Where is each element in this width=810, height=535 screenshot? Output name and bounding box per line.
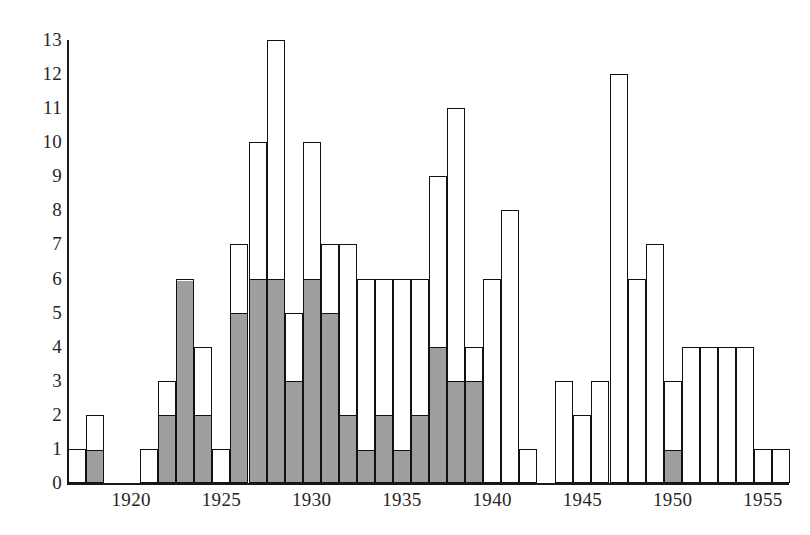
x-axis-tick-label: 1920 <box>86 489 176 511</box>
x-axis-tick-label: 1925 <box>176 489 266 511</box>
histogram-chart: 012345678910111213 192019251930193519401… <box>0 0 810 535</box>
x-axis-tick-label: 1935 <box>357 489 447 511</box>
x-axis-tick-label: 1930 <box>267 489 357 511</box>
x-axis-tick-label: 1955 <box>718 489 808 511</box>
x-axis-tick-labels: 19201925193019351940194519501955 <box>0 0 810 535</box>
x-axis-tick-label: 1945 <box>537 489 627 511</box>
x-axis-tick-label: 1950 <box>628 489 718 511</box>
x-axis-tick-label: 1940 <box>447 489 537 511</box>
